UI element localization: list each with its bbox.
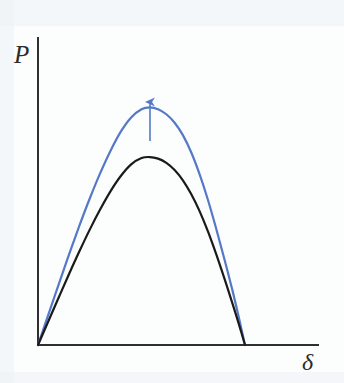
y-axis-label: P bbox=[14, 42, 29, 67]
upper-curve-blue bbox=[38, 107, 245, 345]
lower-curve-black bbox=[38, 157, 245, 345]
plot-canvas bbox=[0, 0, 344, 383]
x-axis-label: δ bbox=[302, 350, 313, 374]
physics-plot-figure: P δ bbox=[0, 0, 344, 383]
